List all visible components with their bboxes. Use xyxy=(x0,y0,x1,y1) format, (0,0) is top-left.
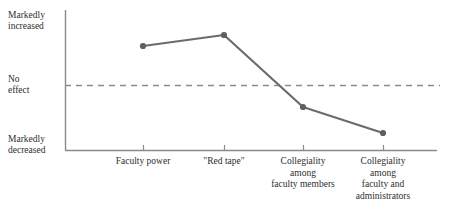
data-point-marker xyxy=(300,104,306,110)
data-line-series-effect xyxy=(143,35,383,133)
x-axis-label-collegiality-faculty-administrators: Collegiality among faculty and administr… xyxy=(356,156,410,202)
chart-container: Markedly increased No effect Markedly de… xyxy=(0,0,453,213)
x-axis-label-faculty-power: Faculty power xyxy=(116,156,171,168)
x-axis-label-collegiality-faculty-members: Collegiality among faculty members xyxy=(271,156,335,191)
data-point-marker xyxy=(380,130,386,136)
y-axis-label-markedly-increased: Markedly increased xyxy=(8,10,45,32)
data-point-marker xyxy=(221,32,227,38)
x-axis-label-red-tape: "Red tape" xyxy=(203,156,244,168)
y-axis-label-no-effect: No effect xyxy=(8,74,29,96)
data-point-marker xyxy=(140,43,146,49)
y-axis-label-markedly-decreased: Markedly decreased xyxy=(8,134,45,156)
